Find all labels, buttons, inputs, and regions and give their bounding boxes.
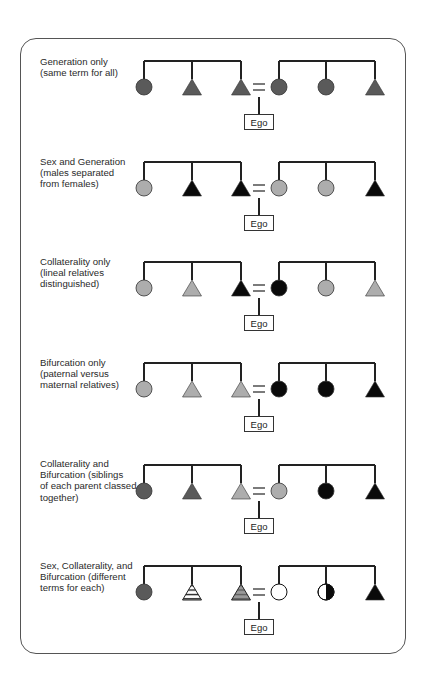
male-triangle-icon — [366, 381, 385, 397]
kinship-row-4: Bifurcation only(paternal versusmaternal… — [0, 353, 428, 453]
kinship-row-1: Generation only(same term for all) Ego — [0, 51, 428, 151]
kin-diagram — [0, 556, 428, 656]
kin-diagram — [0, 51, 428, 151]
kinship-row-2: Sex and Generation(males separatedfrom f… — [0, 152, 428, 252]
male-triangle-icon — [232, 79, 251, 95]
kin-diagram — [0, 455, 428, 555]
male-triangle-icon — [183, 584, 202, 600]
marriage-equals-icon — [253, 185, 265, 191]
male-triangle-icon — [366, 280, 385, 296]
male-triangle-icon — [232, 180, 251, 196]
ego-label: Ego — [251, 622, 268, 633]
marriage-equals-icon — [253, 285, 265, 291]
ego-box: Ego — [244, 215, 274, 231]
female-circle-icon — [318, 584, 334, 600]
ego-box: Ego — [244, 416, 274, 432]
female-circle-icon — [136, 280, 152, 296]
kin-diagram — [0, 152, 428, 252]
female-circle-icon — [318, 381, 334, 397]
male-triangle-icon — [183, 381, 202, 397]
kinship-row-3: Collaterality only(lineal relativesdisti… — [0, 252, 428, 352]
male-triangle-icon — [366, 584, 385, 600]
kinship-row-5: Collaterality andBifurcation (siblingsof… — [0, 455, 428, 555]
ego-box: Ego — [244, 518, 274, 534]
female-circle-icon — [271, 584, 287, 600]
female-circle-icon — [271, 381, 287, 397]
marriage-equals-icon — [253, 84, 265, 90]
male-triangle-icon — [366, 180, 385, 196]
ego-label: Ego — [251, 218, 268, 229]
female-circle-icon — [136, 584, 152, 600]
ego-label: Ego — [251, 318, 268, 329]
female-circle-icon — [136, 381, 152, 397]
kin-diagram — [0, 353, 428, 453]
ego-label: Ego — [251, 521, 268, 532]
marriage-equals-icon — [253, 488, 265, 494]
female-circle-icon — [318, 79, 334, 95]
ego-label: Ego — [251, 419, 268, 430]
male-triangle-icon — [232, 483, 251, 499]
female-circle-icon — [271, 79, 287, 95]
marriage-equals-icon — [253, 386, 265, 392]
ego-label: Ego — [251, 117, 268, 128]
male-triangle-icon — [232, 381, 251, 397]
male-triangle-icon — [183, 180, 202, 196]
female-circle-icon — [271, 483, 287, 499]
male-triangle-icon — [183, 79, 202, 95]
male-triangle-icon — [232, 280, 251, 296]
female-circle-icon — [271, 280, 287, 296]
female-circle-icon — [271, 180, 287, 196]
female-circle-icon — [136, 79, 152, 95]
ego-box: Ego — [244, 114, 274, 130]
marriage-equals-icon — [253, 589, 265, 595]
male-triangle-icon — [366, 483, 385, 499]
kinship-row-6: Sex, Collaterality, andBifurcation (diff… — [0, 556, 428, 656]
male-triangle-icon — [183, 280, 202, 296]
female-circle-icon — [136, 483, 152, 499]
ego-box: Ego — [244, 315, 274, 331]
kin-diagram — [0, 252, 428, 352]
female-circle-icon — [136, 180, 152, 196]
female-circle-icon — [318, 280, 334, 296]
male-triangle-icon — [232, 584, 251, 600]
female-circle-icon — [318, 483, 334, 499]
male-triangle-icon — [366, 79, 385, 95]
male-triangle-icon — [183, 483, 202, 499]
ego-box: Ego — [244, 619, 274, 635]
female-circle-icon — [318, 180, 334, 196]
